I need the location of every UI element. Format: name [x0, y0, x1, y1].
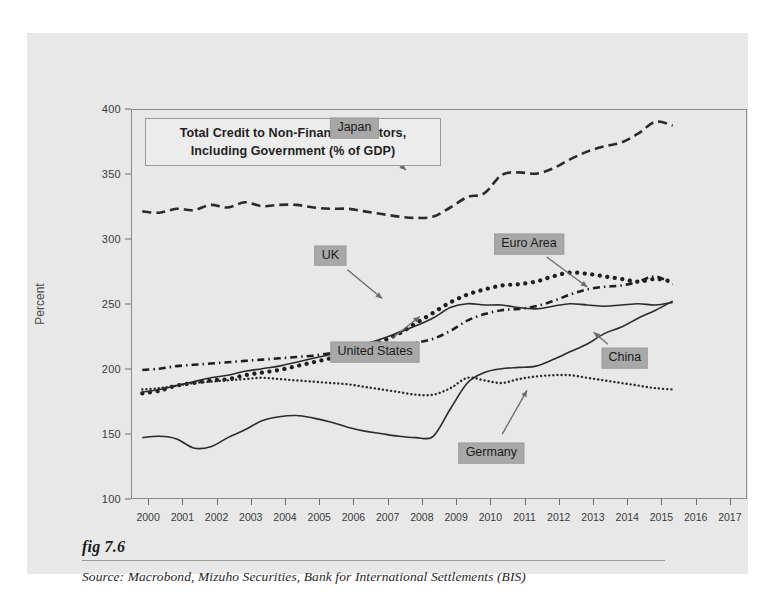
x-tick-mark-2012	[559, 499, 560, 505]
y-tick-200: 200	[102, 363, 121, 375]
x-tick-2000: 2000	[136, 511, 159, 523]
x-tick-mark-2010	[490, 499, 491, 505]
x-tick-2016: 2016	[684, 511, 707, 523]
x-tick-mark-2003	[251, 499, 252, 505]
source-line: Source: Macrobond, Mizuho Securities, Ba…	[82, 569, 682, 585]
x-tick-2005: 2005	[308, 511, 331, 523]
y-tick-100: 100	[102, 493, 121, 505]
x-tick-mark-2009	[456, 499, 457, 505]
callout-china: China	[601, 348, 648, 369]
x-tick-2008: 2008	[410, 511, 433, 523]
x-tick-2010: 2010	[479, 511, 502, 523]
x-tick-mark-2002	[217, 499, 218, 505]
x-tick-mark-2014	[627, 499, 628, 505]
series-line-china	[142, 301, 672, 449]
x-tick-mark-2008	[422, 499, 423, 505]
figure-panel: Percent 100150200250300350400 Total Cred…	[27, 33, 748, 574]
callout-arrowhead-euro-area	[581, 281, 588, 287]
callout-arrow-euro-area	[547, 257, 588, 287]
caption-divider	[82, 560, 665, 561]
callout-uk: UK	[315, 245, 346, 266]
x-tick-2017: 2017	[718, 511, 741, 523]
caption-block: fig 7.6 Source: Macrobond, Mizuho Securi…	[82, 538, 682, 585]
callout-united-states: United States	[330, 341, 419, 362]
x-tick-2006: 2006	[342, 511, 365, 523]
y-tick-250: 250	[102, 298, 121, 310]
x-tick-2009: 2009	[444, 511, 467, 523]
x-tick-mark-2005	[319, 499, 320, 505]
x-tick-mark-2000	[148, 499, 149, 505]
x-tick-mark-2007	[388, 499, 389, 505]
chart-title-line-2: Including Government (% of GDP)	[191, 144, 396, 158]
callout-japan: Japan	[330, 118, 378, 139]
y-tick-350: 350	[102, 168, 121, 180]
x-axis: 2000200120022003200420052006200720082009…	[131, 499, 747, 533]
y-tick-400: 400	[102, 103, 121, 115]
figure-number: fig 7.6	[82, 538, 682, 556]
x-tick-2003: 2003	[239, 511, 262, 523]
y-axis: Percent 100150200250300350400	[54, 109, 131, 499]
x-tick-mark-2015	[661, 499, 662, 505]
y-axis-title: Percent	[33, 283, 47, 324]
plot-area: Total Credit to Non-Financial Sectors, I…	[131, 109, 747, 499]
x-tick-mark-2016	[696, 499, 697, 505]
x-tick-mark-2013	[593, 499, 594, 505]
x-tick-mark-2004	[285, 499, 286, 505]
x-tick-2012: 2012	[547, 511, 570, 523]
x-tick-2011: 2011	[513, 511, 536, 523]
chart-title-box: Total Credit to Non-Financial Sectors, I…	[145, 118, 441, 166]
x-tick-2013: 2013	[581, 511, 604, 523]
callout-arrow-uk	[347, 270, 382, 299]
x-tick-mark-2017	[730, 499, 731, 505]
callout-euro-area: Euro Area	[494, 234, 564, 255]
x-tick-2001: 2001	[171, 511, 194, 523]
x-tick-2004: 2004	[273, 511, 296, 523]
y-tick-150: 150	[102, 428, 121, 440]
x-tick-mark-2006	[353, 499, 354, 505]
x-tick-2015: 2015	[650, 511, 673, 523]
callout-arrow-germany	[502, 390, 527, 434]
x-tick-mark-2001	[182, 499, 183, 505]
figure-page: Percent 100150200250300350400 Total Cred…	[0, 0, 775, 607]
y-tick-300: 300	[102, 233, 121, 245]
series-line-uk	[142, 272, 672, 393]
x-tick-2002: 2002	[205, 511, 228, 523]
x-tick-2014: 2014	[616, 511, 639, 523]
series-lines	[132, 110, 748, 500]
series-line-germany	[142, 375, 672, 395]
callout-germany: Germany	[459, 443, 524, 464]
x-tick-2007: 2007	[376, 511, 399, 523]
x-tick-mark-2011	[525, 499, 526, 505]
